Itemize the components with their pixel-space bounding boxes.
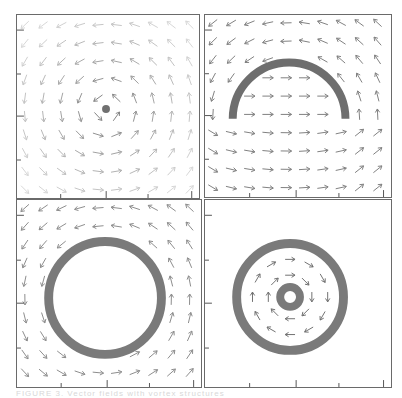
vector-field-b [205,15,391,197]
panel-d-double-ring-vortex [204,199,392,388]
figure-caption: FIGURE 3. Vector fields with vortex stru… [16,389,225,398]
panel-c-ring-vortex [16,199,202,388]
vector-field-a [17,15,199,198]
vector-field-c [17,200,201,387]
vector-field-d [205,200,391,387]
panel-b-semicircle-vortex [204,14,392,198]
panel-a-point-vortex [16,14,200,199]
